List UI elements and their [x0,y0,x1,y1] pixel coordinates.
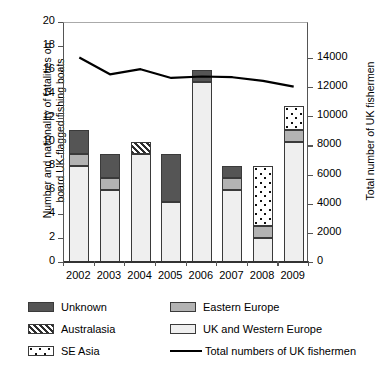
x-tick-mark [308,261,309,266]
left-tick-mark [58,190,63,191]
x-tick-mark [247,261,248,266]
right-tick-label: 6000 [317,167,362,179]
line-series-total-fishermen [64,23,309,263]
left-tick-label: 20 [15,14,55,26]
legend-item-uk_western_europe[interactable]: UK and Western Europe [170,323,322,335]
right-tick-mark [308,87,313,88]
x-tick-mark [277,261,278,266]
right-tick-label: 4000 [317,196,362,208]
left-tick-mark [58,142,63,143]
legend-row: SE AsiaTotal numbers of UK fishermen [28,340,368,362]
left-tick-label: 12 [15,110,55,122]
x-tick-mark [155,261,156,266]
x-tick-mark [63,261,64,266]
legend-label-eastern_europe: Eastern Europe [203,301,279,313]
right-tick-label: 2000 [317,225,362,237]
legend-label-uk_western_europe: UK and Western Europe [203,323,322,335]
legend: UnknownEastern EuropeAustralasiaUK and W… [28,296,368,362]
right-tick-label: 12000 [317,79,362,91]
right-tick-mark [308,204,313,205]
x-tick-mark [94,261,95,266]
legend-swatch-total_fishermen-icon [170,350,202,352]
legend-item-total_fishermen[interactable]: Total numbers of UK fishermen [170,345,356,357]
left-tick-label: 10 [15,134,55,146]
legend-row: AustralasiaUK and Western Europe [28,318,368,340]
legend-swatch-unknown-icon [28,302,54,312]
x-tick-label-2009: 2009 [273,269,313,281]
right-tick-mark [308,145,313,146]
left-tick-mark [58,118,63,119]
legend-swatch-australasia-icon [28,324,54,334]
left-tick-label: 18 [15,38,55,50]
right-tick-label: 8000 [317,137,362,149]
left-tick-label: 16 [15,62,55,74]
right-tick-label: 0 [317,254,362,266]
left-tick-label: 14 [15,86,55,98]
legend-swatch-eastern_europe-icon [170,302,196,312]
legend-row: UnknownEastern Europe [28,296,368,318]
legend-swatch-uk_western_europe-icon [170,324,196,334]
legend-swatch-se_asia-icon [28,346,54,356]
left-tick-mark [58,70,63,71]
legend-label-unknown: Unknown [61,301,107,313]
legend-label-total_fishermen: Total numbers of UK fishermen [205,345,356,357]
x-tick-mark [124,261,125,266]
legend-item-se_asia[interactable]: SE Asia [28,345,170,357]
left-tick-mark [58,238,63,239]
right-tick-mark [308,58,313,59]
chart-figure: Number and nationality of fatalities on … [0,0,381,370]
left-tick-mark [58,166,63,167]
left-tick-label: 2 [15,230,55,242]
right-axis-title: Total number of UK fishermen [364,26,376,236]
x-tick-mark [186,261,187,266]
x-tick-mark [216,261,217,266]
legend-item-eastern_europe[interactable]: Eastern Europe [170,301,279,313]
left-tick-label: 8 [15,158,55,170]
right-tick-label: 14000 [317,50,362,62]
left-tick-label: 4 [15,206,55,218]
legend-label-se_asia: SE Asia [61,345,100,357]
legend-label-australasia: Australasia [61,323,115,335]
left-tick-mark [58,22,63,23]
plot-area [63,22,308,262]
right-tick-mark [308,233,313,234]
right-tick-label: 10000 [317,108,362,120]
left-tick-label: 6 [15,182,55,194]
left-tick-mark [58,46,63,47]
plot-inner [64,23,307,262]
left-tick-label: 0 [15,254,55,266]
left-tick-mark [58,214,63,215]
legend-item-australasia[interactable]: Australasia [28,323,170,335]
legend-item-unknown[interactable]: Unknown [28,301,170,313]
right-tick-mark [308,116,313,117]
left-tick-mark [58,94,63,95]
right-tick-mark [308,175,313,176]
